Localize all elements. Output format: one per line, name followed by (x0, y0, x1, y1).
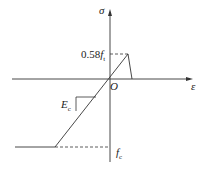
origin-label: O (110, 81, 118, 92)
tensile-strength-label: 0.58ft (81, 49, 105, 63)
stress-axis-arrow-icon (108, 9, 112, 16)
strain-axis-label: ε (191, 81, 195, 92)
elastic-modulus-label: Ec (61, 99, 71, 113)
stress-axis-label: σ (99, 5, 104, 16)
stress-strain-diagram (0, 0, 211, 170)
compressive-strength-label: fc (116, 147, 122, 161)
stress-strain-curve (15, 54, 132, 147)
